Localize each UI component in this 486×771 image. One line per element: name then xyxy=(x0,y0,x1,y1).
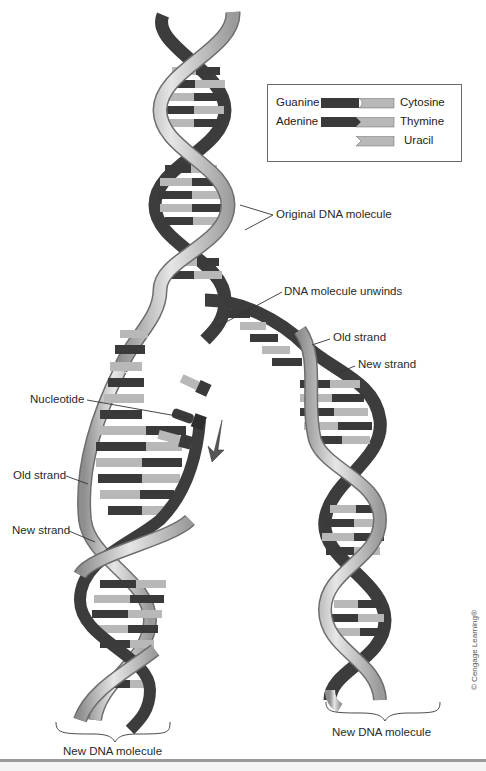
brace-right xyxy=(326,702,440,721)
uracil-bar-icon xyxy=(321,136,395,147)
legend-uracil: Uracil xyxy=(404,134,433,146)
adenine-thymine-bar-icon xyxy=(321,117,395,128)
label-new-strand-right: New strand xyxy=(358,358,416,370)
guanine-cytosine-bar-icon xyxy=(321,98,395,109)
legend-cytosine: Cytosine xyxy=(400,96,445,108)
base-pair-legend: Guanine Cytosine Adenine Thymine Uracil xyxy=(267,84,462,162)
leader-old-strand-right xyxy=(312,339,330,345)
legend-row-guanine-cytosine: Guanine Cytosine xyxy=(268,95,461,111)
leader-original-2 xyxy=(245,215,273,230)
label-nucleotide: Nucleotide xyxy=(30,393,84,405)
label-new-dna-left: New DNA molecule xyxy=(63,745,162,757)
brace-left xyxy=(56,722,170,742)
label-old-strand-right: Old strand xyxy=(333,331,386,343)
legend-row-adenine-thymine: Adenine Thymine xyxy=(268,114,461,130)
bottom-strip xyxy=(0,762,486,771)
label-original-dna: Original DNA molecule xyxy=(276,208,392,220)
leader-original-1 xyxy=(240,205,273,215)
incoming-arrow xyxy=(208,420,224,462)
legend-row-uracil: Uracil xyxy=(268,133,461,149)
label-old-strand-left: Old strand xyxy=(13,469,66,481)
original-dna-helix xyxy=(120,12,233,370)
left-new-dna-helix xyxy=(80,330,200,730)
legend-adenine: Adenine xyxy=(276,115,318,127)
label-new-dna-right: New DNA molecule xyxy=(332,726,431,738)
label-new-strand-left: New strand xyxy=(12,524,70,536)
legend-guanine: Guanine xyxy=(276,96,319,108)
copyright-credit: © Cengage Learning® xyxy=(470,610,479,690)
label-dna-unwinds: DNA molecule unwinds xyxy=(284,285,402,297)
legend-thymine: Thymine xyxy=(400,115,444,127)
